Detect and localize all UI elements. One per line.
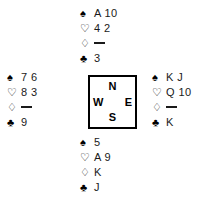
hand-east: ♠ K J ♡ Q 10 ♢ ♣ K: [152, 70, 191, 130]
hand-south: ♠ 5 ♡ A 9 ♢ K ♣ J: [80, 135, 111, 195]
diamond-icon: ♢: [7, 100, 21, 115]
diamond-icon: ♢: [152, 100, 166, 115]
hand-west-hearts: 8 3: [21, 85, 38, 100]
hand-east-clubs: K: [166, 115, 174, 130]
hand-west-spades-row: ♠ 7 6: [7, 70, 38, 85]
spade-icon: ♠: [152, 70, 166, 85]
hand-west-clubs: 9: [21, 115, 28, 130]
hand-south-hearts-row: ♡ A 9: [80, 150, 111, 165]
hand-west-diamonds-row: ♢: [7, 100, 38, 115]
club-icon: ♣: [80, 180, 94, 195]
hand-west: ♠ 7 6 ♡ 8 3 ♢ ♣ 9: [7, 70, 38, 130]
hand-north-diamonds-row: ♢: [80, 36, 118, 51]
bridge-deal-diagram: ♠ A 10 ♡ 4 2 ♢ ♣ 3 ♠ 7 6 ♡ 8 3 ♢ ♣: [0, 0, 209, 206]
compass-south-label: S: [109, 112, 116, 123]
hand-south-diamonds: K: [94, 165, 102, 180]
hand-north-spades-row: ♠ A 10: [80, 6, 118, 21]
hand-south-diamonds-row: ♢ K: [80, 165, 111, 180]
club-icon: ♣: [80, 51, 94, 66]
diamond-icon: ♢: [80, 36, 94, 51]
hand-west-hearts-row: ♡ 8 3: [7, 85, 38, 100]
club-icon: ♣: [7, 115, 21, 130]
compass-west-label: W: [93, 97, 103, 108]
hand-east-diamonds: [166, 100, 177, 115]
heart-icon: ♡: [152, 85, 166, 100]
void-dash: [166, 106, 177, 108]
hand-north-clubs: 3: [94, 51, 101, 66]
hand-west-spades: 7 6: [21, 70, 38, 85]
hand-north-diamonds: [94, 36, 105, 51]
club-icon: ♣: [152, 115, 166, 130]
diamond-icon: ♢: [80, 165, 94, 180]
heart-icon: ♡: [80, 150, 94, 165]
compass-north-label: N: [109, 81, 117, 92]
hand-north-hearts-row: ♡ 4 2: [80, 21, 118, 36]
hand-south-hearts: A 9: [94, 150, 111, 165]
spade-icon: ♠: [80, 6, 94, 21]
spade-icon: ♠: [80, 135, 94, 150]
hand-east-spades-row: ♠ K J: [152, 70, 191, 85]
compass-box: N W E S: [88, 75, 137, 129]
void-dash: [94, 42, 105, 44]
hand-south-spades: 5: [94, 135, 101, 150]
hand-west-clubs-row: ♣ 9: [7, 115, 38, 130]
hand-south-spades-row: ♠ 5: [80, 135, 111, 150]
hand-south-clubs-row: ♣ J: [80, 180, 111, 195]
heart-icon: ♡: [7, 85, 21, 100]
hand-west-diamonds: [21, 100, 32, 115]
spade-icon: ♠: [7, 70, 21, 85]
hand-south-clubs: J: [94, 180, 100, 195]
hand-east-hearts-row: ♡ Q 10: [152, 85, 191, 100]
hand-north: ♠ A 10 ♡ 4 2 ♢ ♣ 3: [80, 6, 118, 66]
hand-east-spades: K J: [166, 70, 183, 85]
hand-north-hearts: 4 2: [94, 21, 111, 36]
hand-north-clubs-row: ♣ 3: [80, 51, 118, 66]
void-dash: [21, 106, 32, 108]
hand-east-clubs-row: ♣ K: [152, 115, 191, 130]
compass-east-label: E: [125, 97, 132, 108]
heart-icon: ♡: [80, 21, 94, 36]
hand-east-hearts: Q 10: [166, 85, 191, 100]
hand-east-diamonds-row: ♢: [152, 100, 191, 115]
hand-north-spades: A 10: [94, 6, 118, 21]
